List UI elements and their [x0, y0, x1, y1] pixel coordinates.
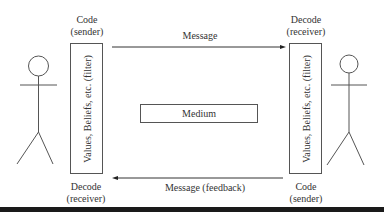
- right-top-label-line1: Decode: [277, 14, 335, 26]
- right-bottom-label-line1: Code: [282, 181, 330, 193]
- feedback-label: Message (feedback): [150, 182, 260, 194]
- right-filter-label: Values, Beliefs, etc. (filter): [300, 55, 311, 163]
- right-bottom-label-line2: (sender): [282, 193, 330, 205]
- right-filter-box: Values, Beliefs, etc. (filter): [289, 43, 322, 174]
- head-icon: [340, 55, 358, 73]
- left-bottom-label-line1: Decode: [58, 181, 114, 193]
- left-bottom-label: Decode (receiver): [58, 181, 114, 205]
- left-top-label-line1: Code: [62, 14, 112, 26]
- arrowhead-left-icon: [112, 176, 118, 180]
- left-bottom-label-line2: (receiver): [58, 193, 114, 205]
- head-icon: [29, 56, 49, 76]
- bottom-rule: [0, 207, 384, 212]
- medium-box: Medium: [140, 104, 258, 123]
- left-filter-box: Values, Beliefs, etc. (filter): [70, 43, 103, 174]
- stick-figure-left: [17, 56, 57, 164]
- left-filter-label: Values, Beliefs, etc. (filter): [81, 55, 92, 163]
- right-bottom-label: Code (sender): [282, 181, 330, 205]
- left-top-label: Code (sender): [62, 14, 112, 38]
- arrowhead-right-icon: [280, 45, 286, 49]
- right-top-label-line2: (receiver): [277, 26, 335, 38]
- left-top-label-line2: (sender): [62, 26, 112, 38]
- medium-label: Medium: [182, 108, 216, 119]
- stick-figure-right: [327, 55, 367, 165]
- message-arrow: [112, 45, 286, 49]
- message-label: Message: [160, 30, 240, 42]
- feedback-arrow: [112, 176, 283, 180]
- right-top-label: Decode (receiver): [277, 14, 335, 38]
